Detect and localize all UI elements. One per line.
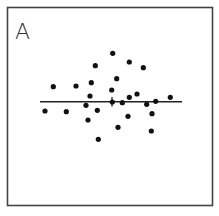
data-point: [125, 114, 130, 119]
scatter-panel: A: [0, 0, 219, 216]
data-point: [109, 87, 114, 92]
data-point: [127, 95, 132, 100]
data-point: [110, 99, 115, 104]
data-point: [168, 95, 173, 100]
data-point: [141, 65, 146, 70]
data-point: [153, 99, 158, 104]
data-point: [134, 91, 139, 96]
data-point: [115, 125, 120, 130]
data-point: [83, 103, 88, 108]
data-point: [42, 108, 47, 113]
data-point: [73, 83, 78, 88]
data-point: [95, 108, 100, 113]
data-point: [149, 111, 154, 116]
data-point: [85, 117, 90, 122]
data-point: [89, 80, 94, 85]
panel-label: A: [15, 19, 30, 44]
data-point: [120, 100, 125, 105]
data-point: [51, 84, 56, 89]
data-point: [93, 63, 98, 68]
data-point: [96, 137, 101, 142]
panel-frame: [8, 8, 213, 206]
data-point: [144, 102, 149, 107]
data-point: [127, 59, 132, 64]
data-point: [87, 93, 92, 98]
data-point: [110, 51, 115, 56]
data-point: [149, 128, 154, 133]
data-point: [114, 76, 119, 81]
data-point: [64, 109, 69, 114]
